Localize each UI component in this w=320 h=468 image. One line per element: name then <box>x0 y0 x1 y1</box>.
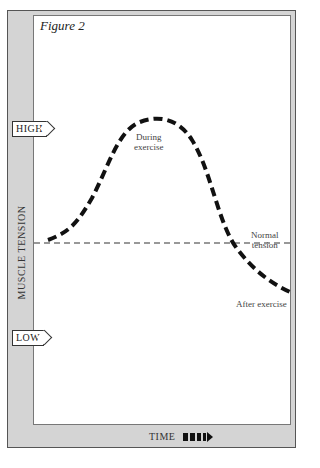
during-exercise-label: Duringexercise <box>134 132 163 152</box>
x-axis-label: TIME <box>149 431 175 442</box>
normal-tension-label: Normaltension <box>251 230 279 250</box>
after-exercise-label: After exercise <box>236 299 287 309</box>
exercise-curve <box>48 119 290 292</box>
time-arrow-icon <box>183 432 215 442</box>
